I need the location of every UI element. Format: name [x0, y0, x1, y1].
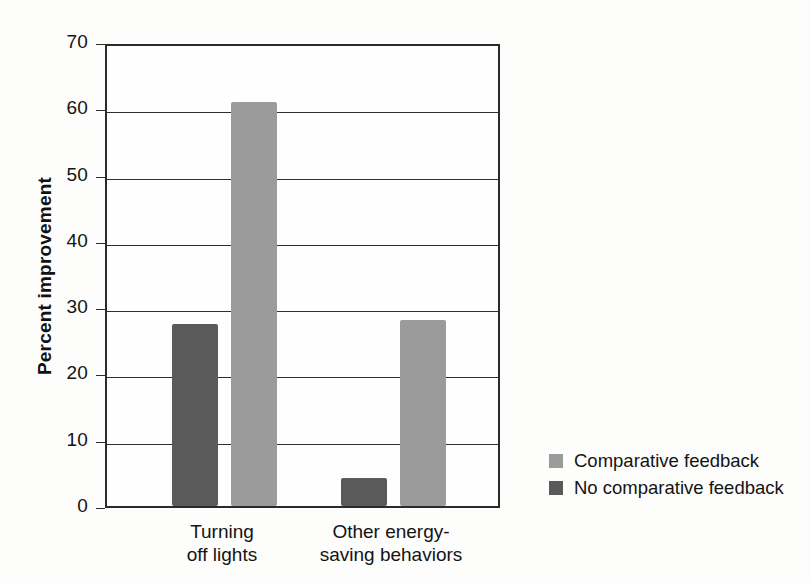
legend-swatch-icon [549, 454, 563, 468]
x-axis-category-label-line: Other energy- [251, 520, 531, 543]
y-tick-mark-60 [96, 110, 105, 111]
y-tick-label-30: 30 [18, 296, 88, 318]
gridline-40 [107, 245, 498, 246]
bar [231, 102, 277, 506]
x-axis-category-label: Other energy-saving behaviors [251, 520, 531, 566]
y-tick-mark-70 [96, 44, 105, 45]
gridline-50 [107, 179, 498, 180]
x-axis-category-label-line: saving behaviors [251, 543, 531, 566]
y-tick-label-50: 50 [18, 164, 88, 186]
legend-item: No comparative feedback [549, 474, 784, 501]
y-tick-label-40: 40 [18, 230, 88, 252]
y-tick-mark-20 [96, 375, 105, 376]
y-tick-mark-50 [96, 177, 105, 178]
y-tick-mark-0 [96, 508, 105, 509]
plot-area [105, 44, 500, 508]
legend-label: Comparative feedback [574, 450, 759, 472]
y-tick-label-10: 10 [18, 429, 88, 451]
bar [341, 478, 387, 506]
y-tick-label-70: 70 [18, 31, 88, 53]
gridline-60 [107, 112, 498, 113]
bar [172, 324, 218, 506]
legend-swatch-icon [549, 481, 563, 495]
legend-item: Comparative feedback [549, 447, 784, 474]
y-tick-mark-10 [96, 442, 105, 443]
gridline-30 [107, 311, 498, 312]
y-tick-label-0: 0 [18, 495, 88, 517]
chart-legend: Comparative feedbackNo comparative feedb… [549, 447, 784, 501]
y-tick-label-60: 60 [18, 97, 88, 119]
y-tick-mark-40 [96, 243, 105, 244]
y-tick-mark-30 [96, 309, 105, 310]
bar [400, 320, 446, 506]
y-tick-label-20: 20 [18, 362, 88, 384]
chart-figure: Percent improvement 706050403020100 Turn… [0, 0, 810, 583]
legend-label: No comparative feedback [574, 477, 784, 499]
